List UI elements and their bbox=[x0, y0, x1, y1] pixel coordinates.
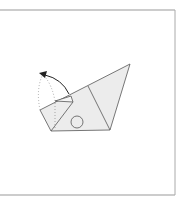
paper-body bbox=[40, 64, 130, 131]
arrowhead-icon bbox=[39, 71, 47, 78]
dotted-guide-outer bbox=[38, 76, 42, 110]
fold-arrow bbox=[45, 75, 69, 94]
origami-diagram bbox=[0, 0, 176, 208]
small-fold bbox=[55, 96, 73, 102]
